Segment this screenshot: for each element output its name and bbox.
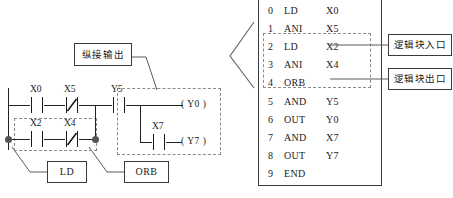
callout-orb: ORB	[124, 161, 169, 183]
output-block-bus	[140, 105, 141, 142]
il-row: 3 ANI X4	[268, 56, 356, 73]
contact-y5-left-bar	[113, 97, 114, 113]
il-row: 4 ORB	[268, 74, 356, 91]
il-row: 0 LD X0	[268, 2, 356, 19]
contact-y5[interactable]	[112, 97, 126, 113]
il-row: 9 END	[268, 165, 356, 182]
il-op: AND	[284, 133, 326, 143]
il-row: 1 ANI X5	[268, 20, 356, 37]
rung-main-wire-a	[95, 105, 112, 106]
contact-x7-left-bar	[153, 134, 154, 150]
contact-x2-label: X2	[30, 119, 42, 129]
il-row: 2 LD X2	[268, 38, 356, 55]
il-row: 6 OUT Y0	[268, 111, 356, 128]
rung-bottom-wire-b	[44, 139, 65, 140]
callout-ld: LD	[47, 161, 87, 183]
rung-top-wire-a	[8, 105, 30, 106]
il-operand: Y5	[326, 97, 356, 107]
il-step: 2	[268, 42, 284, 52]
annotation-block-exit: 逻辑块出口	[388, 68, 452, 90]
contact-x2-right-bar	[42, 131, 43, 147]
il-step: 3	[268, 60, 284, 70]
il-op: ANI	[284, 24, 326, 34]
il-operand: Y7	[326, 151, 356, 161]
contact-x4-label: X4	[64, 119, 76, 129]
il-op: OUT	[284, 151, 326, 161]
il-step: 9	[268, 169, 284, 179]
contact-x0[interactable]	[30, 97, 44, 113]
contact-x0-label: X0	[30, 85, 42, 95]
il-operand: X0	[326, 6, 356, 16]
il-op: END	[284, 169, 326, 179]
il-op: LD	[284, 42, 326, 52]
plc-ladder-instruction-figure: 纵接输出 X0 X5 X2 X4	[0, 0, 453, 198]
contact-x4[interactable]	[65, 131, 79, 147]
il-operand: X7	[326, 133, 356, 143]
il-step: 8	[268, 151, 284, 161]
il-op: ORB	[284, 78, 326, 88]
il-row: 8 OUT Y7	[268, 147, 356, 164]
branch-join-vertical	[95, 105, 96, 140]
contact-x7-right-bar	[164, 134, 165, 150]
contact-x4-slash	[65, 130, 79, 148]
contact-x5-label: X5	[64, 85, 76, 95]
contact-x5[interactable]	[65, 97, 79, 113]
il-step: 7	[268, 133, 284, 143]
annotation-block-entry: 逻辑块入口	[388, 34, 452, 56]
contact-x2[interactable]	[30, 131, 44, 147]
il-step: 0	[268, 6, 284, 16]
il-op: OUT	[284, 115, 326, 125]
contact-x0-right-bar	[42, 97, 43, 113]
il-step: 6	[268, 115, 284, 125]
il-op: AND	[284, 97, 326, 107]
il-step: 1	[268, 24, 284, 34]
il-row: 7 AND X7	[268, 129, 356, 146]
contact-x2-left-bar	[31, 131, 32, 147]
coil-y0-wire	[140, 105, 183, 106]
contact-x7[interactable]	[152, 134, 166, 150]
il-step: 4	[268, 78, 284, 88]
il-op: ANI	[284, 60, 326, 70]
il-step: 5	[268, 97, 284, 107]
coil-y7: ( Y7 )	[181, 137, 206, 147]
il-row: 5 AND Y5	[268, 93, 356, 110]
orb-junction-node	[92, 136, 99, 143]
contact-x5-slash	[65, 96, 79, 114]
contact-y5-label: Y5	[111, 85, 123, 95]
contact-x0-left-bar	[31, 97, 32, 113]
contact-x7-label: X7	[152, 122, 164, 132]
rung-top-wire-b	[44, 105, 65, 106]
callout-vertical-output: 纵接输出	[74, 43, 132, 66]
il-operand: X2	[326, 42, 356, 52]
coil-y7-wire-b	[166, 142, 182, 143]
ld-junction-node	[5, 136, 12, 143]
or-block-dashed-region	[14, 118, 97, 151]
il-op: LD	[284, 6, 326, 16]
coil-y0: ( Y0 )	[181, 100, 206, 110]
il-operand: X4	[326, 60, 356, 70]
coil-y7-wire-a	[140, 142, 152, 143]
il-operand: X5	[326, 24, 356, 34]
contact-y5-right-bar	[124, 97, 125, 113]
il-operand: Y0	[326, 115, 356, 125]
